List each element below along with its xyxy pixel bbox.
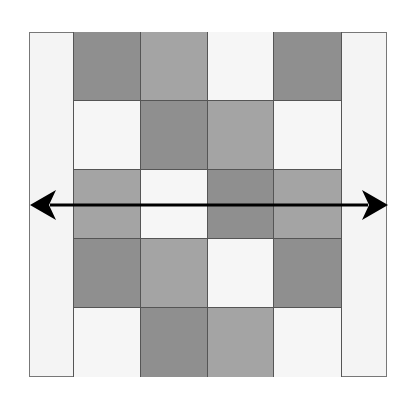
quilt-cell: [208, 239, 275, 308]
quilt-cell: [274, 101, 341, 170]
quilt-grid: [73, 32, 342, 377]
quilt-cell: [141, 239, 208, 308]
quilt-cell: [208, 101, 275, 170]
quilt-cell: [141, 101, 208, 170]
quilt-cell: [74, 239, 141, 308]
quilt-cell: [74, 32, 141, 101]
quilt-cell: [141, 170, 208, 239]
quilt-cell: [141, 32, 208, 101]
quilt-cell: [274, 308, 341, 377]
quilt-cell: [74, 170, 141, 239]
quilt-cell: [274, 170, 341, 239]
quilt-cell: [208, 32, 275, 101]
quilt-cell: [74, 308, 141, 377]
quilt-cell: [208, 308, 275, 377]
quilt-cell: [208, 170, 275, 239]
quilt-cell: [274, 239, 341, 308]
quilt-cell: [74, 101, 141, 170]
quilt-cell: [141, 308, 208, 377]
quilt-cell: [274, 32, 341, 101]
